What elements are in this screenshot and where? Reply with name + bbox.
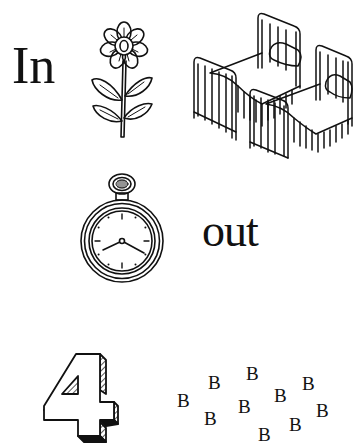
- letter-b: B: [258, 425, 271, 444]
- number-four-3d-icon: [42, 350, 124, 442]
- letter-b: B: [289, 415, 302, 434]
- word-out: out: [202, 208, 258, 254]
- letter-b: B: [316, 401, 329, 420]
- pocket-watch-icon: [78, 172, 168, 292]
- letter-b: B: [274, 386, 287, 405]
- letter-b: B: [177, 391, 190, 410]
- flower-icon: [90, 18, 154, 142]
- beds-icon: [190, 8, 355, 158]
- letter-b: B: [238, 397, 251, 416]
- word-in: In: [12, 40, 55, 92]
- letter-b: B: [246, 364, 259, 383]
- letter-b: B: [208, 373, 221, 392]
- letter-b: B: [204, 409, 217, 428]
- rebus-puzzle: In: [0, 0, 359, 446]
- letter-b: B: [302, 374, 315, 393]
